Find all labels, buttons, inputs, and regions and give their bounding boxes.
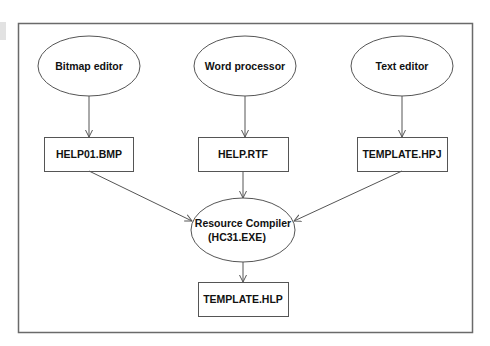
node-resource-compiler: Resource Compiler (HC31.EXE) (191, 198, 295, 262)
node-help01-bmp: HELP01.BMP (45, 138, 134, 172)
node-label-line1: Resource Compiler (195, 217, 291, 229)
node-label: Text editor (376, 60, 429, 72)
node-label: HELP01.BMP (56, 148, 122, 160)
node-label-line2: (HC31.EXE) (208, 231, 266, 243)
node-label: TEMPLATE.HLP (203, 293, 283, 305)
node-label: TEMPLATE.HPJ (362, 148, 441, 160)
node-label: Bitmap editor (55, 60, 123, 72)
edge-bmp-to-compiler (89, 171, 192, 221)
node-help-rtf: HELP.RTF (199, 138, 289, 172)
node-bitmap-editor: Bitmap editor (38, 36, 140, 96)
node-template-hlp: TEMPLATE.HLP (199, 283, 289, 317)
node-template-hpj: TEMPLATE.HPJ (358, 138, 448, 172)
node-label: Word processor (205, 60, 285, 72)
help-build-diagram: Bitmap editor Word processor Text editor… (0, 0, 490, 346)
node-word-processor: Word processor (194, 36, 296, 96)
edge-hpj-to-compiler (294, 171, 402, 221)
node-text-editor: Text editor (351, 36, 453, 96)
node-label: HELP.RTF (218, 148, 269, 160)
